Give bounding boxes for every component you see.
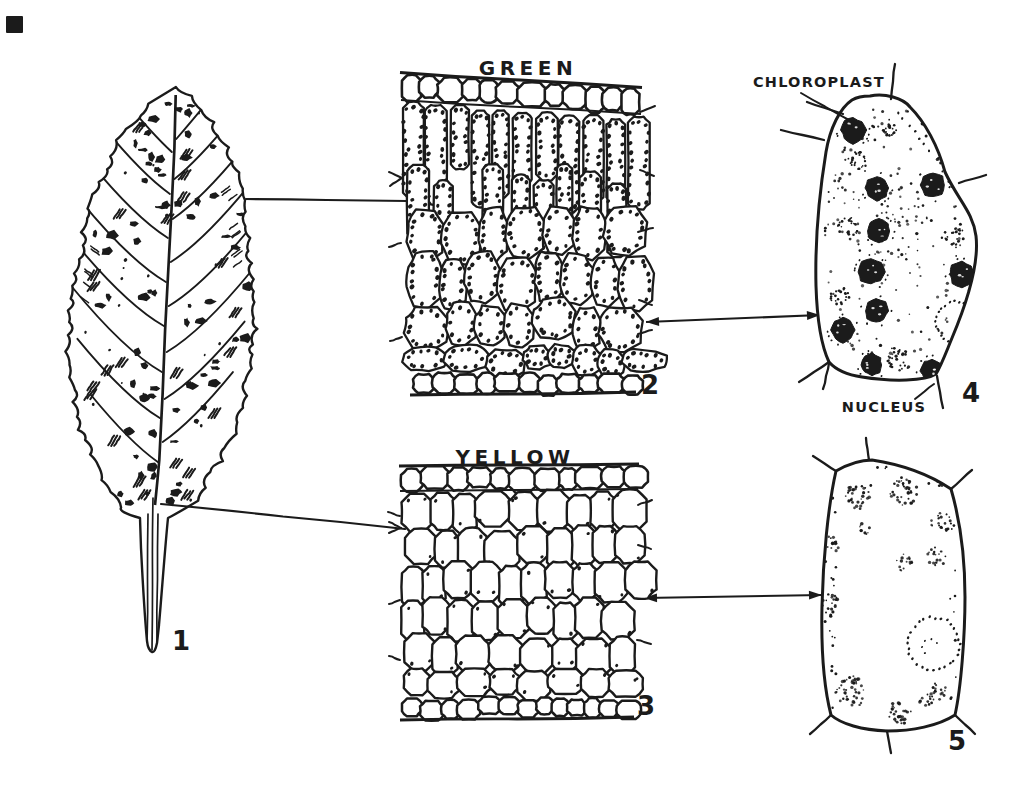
stipple-dot (945, 477, 947, 479)
stipple-dot (843, 287, 846, 290)
arrowhead (809, 591, 822, 600)
stipple-dot (858, 340, 860, 342)
stipple-dot (835, 566, 838, 569)
stipple-dot (867, 532, 869, 534)
stipple-dot (954, 595, 957, 598)
stipple-dot (850, 162, 852, 164)
stipple-dot (959, 229, 962, 232)
stipple-dot (856, 230, 858, 232)
stipple-dot (831, 497, 834, 500)
dotted-ring-dot (966, 336, 969, 340)
stipple-dot (854, 223, 857, 226)
stipple-dot (857, 223, 860, 226)
stipple-dot (910, 182, 913, 185)
stipple-dot (834, 595, 837, 598)
blob-highlight (878, 229, 881, 231)
parenchyma-cell (517, 526, 549, 563)
stipple-dot (946, 317, 948, 319)
stipple-dot (880, 251, 882, 253)
dotted-ring-dot (971, 309, 975, 313)
stipple-dot (852, 488, 855, 491)
stipple-dot (832, 293, 834, 295)
cell-junction-spike (937, 376, 943, 408)
stipple-dot (893, 351, 896, 354)
stipple-dot (838, 290, 841, 293)
stipple-dot (924, 704, 927, 707)
green-cell-number: 4 (962, 378, 980, 408)
stipple-dot (860, 522, 864, 526)
stipple-dot (932, 561, 935, 564)
dotted-ring-dot (970, 334, 973, 337)
stipple-dot (954, 217, 957, 220)
stipple-dot (951, 243, 954, 246)
stipple-dot (854, 164, 856, 166)
stipple-dot (854, 688, 857, 691)
stipple-dot (847, 492, 849, 494)
stipple-dot (890, 363, 893, 366)
blob-highlight (933, 369, 936, 371)
stipple-dot (842, 698, 844, 700)
stipple-dot (944, 522, 947, 525)
parenchyma-cell (404, 633, 434, 671)
stipple-dot (879, 344, 882, 347)
stipple-dot (929, 692, 932, 695)
stipple-dot (881, 203, 884, 206)
stipple-dot (898, 566, 901, 569)
stipple-dot (869, 254, 871, 256)
stipple-dot (890, 174, 893, 177)
stipple-dot (881, 110, 884, 113)
stipple-dot (934, 683, 936, 685)
stipple-dot (937, 522, 939, 524)
blob-highlight (961, 276, 964, 277)
stipple-dot (831, 594, 833, 596)
leaf-illustration (65, 87, 257, 652)
stipple-dot (955, 205, 957, 207)
stipple-dot (835, 598, 838, 601)
stipple-dot (915, 215, 918, 218)
stipple-dot (936, 559, 939, 562)
dotted-ring-dot (974, 317, 977, 320)
stipple-dot (835, 300, 837, 302)
chloroplast-blob (920, 173, 944, 196)
stipple-dot (902, 504, 904, 506)
parenchyma-cell (427, 672, 459, 699)
stipple-dot (829, 630, 831, 632)
epidermis-cell (496, 81, 520, 103)
stipple-dot (919, 700, 922, 703)
stipple-dot (901, 354, 903, 356)
stipple-dot (887, 250, 889, 252)
stipple-dot (943, 157, 945, 159)
stipple-dot (843, 149, 846, 152)
stipple-dot (885, 212, 887, 214)
stipple-dot (959, 223, 962, 226)
stipple-dot (855, 691, 858, 694)
stipple-dot (907, 365, 910, 368)
stipple-dot (856, 232, 858, 234)
stipple-dot (927, 694, 929, 696)
stipple-dot (915, 493, 918, 496)
stipple-dot (938, 698, 941, 701)
stipple-dot (850, 686, 853, 689)
epidermis-cell (447, 467, 469, 491)
stipple-dot (828, 281, 830, 283)
stipple-dot (937, 515, 939, 517)
stipple-dot (936, 562, 938, 564)
stipple-dot (944, 686, 947, 689)
stipple-dot (903, 362, 905, 364)
stipple-dot (833, 197, 835, 199)
stipple-dot (929, 698, 931, 700)
stipple-dot (945, 529, 948, 532)
stipple-dot (902, 484, 904, 486)
stipple-dot (938, 524, 940, 526)
stipple-dot (850, 217, 852, 219)
petiole-line (152, 498, 153, 650)
stipple-dot (904, 722, 906, 724)
stipple-dot (831, 610, 834, 613)
stipple-dot (896, 484, 899, 487)
stipple-dot (834, 691, 837, 694)
stipple-dot (848, 219, 851, 222)
stipple-dot (945, 555, 947, 557)
stipple-dot (896, 560, 898, 562)
stipple-dot (936, 295, 939, 298)
green-cell-illustration (781, 64, 986, 408)
